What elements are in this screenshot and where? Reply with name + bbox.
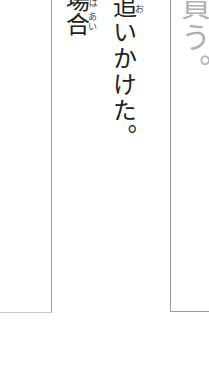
middle-column-text: 追いかけた。 [110, 0, 134, 150]
left-column-text: 場合 [63, 0, 87, 36]
right-column-text: 買う。 [178, 0, 208, 86]
left-answer-box [0, 0, 52, 313]
left-column-ruby-partial: ば [88, 0, 97, 7]
left-column-ruby: あい [87, 12, 96, 32]
middle-column-ruby: お [134, 4, 143, 13]
